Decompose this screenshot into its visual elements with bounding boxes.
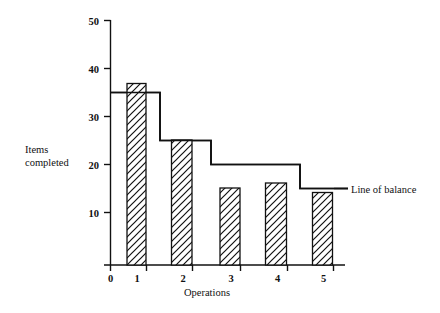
chart-svg: 50 40 30 20 10 bbox=[0, 0, 440, 313]
y-axis-title-line2: completed bbox=[25, 157, 69, 168]
line-of-balance-chart: 50 40 30 20 10 bbox=[0, 0, 440, 313]
bars-group bbox=[127, 84, 333, 266]
bar-operation-4 bbox=[266, 183, 287, 265]
bar-operation-1 bbox=[127, 84, 146, 266]
x-tick-label-1: 1 bbox=[134, 273, 139, 284]
y-tick-label-10: 10 bbox=[89, 208, 100, 219]
bar-operation-5 bbox=[313, 193, 333, 266]
x-tick-label-0: 0 bbox=[108, 273, 113, 284]
y-tick-label-30: 30 bbox=[89, 112, 100, 123]
y-tick-label-50: 50 bbox=[89, 16, 100, 27]
y-tick-label-20: 20 bbox=[89, 160, 100, 171]
line-of-balance-annotation-group: Line of balance bbox=[334, 184, 417, 195]
y-axis-ticks: 50 40 30 20 10 bbox=[89, 16, 111, 219]
y-axis-title-line1: Items bbox=[25, 144, 48, 155]
x-tick-label-4: 4 bbox=[275, 273, 281, 284]
x-axis-ticks: 0 1 2 3 4 5 bbox=[108, 265, 334, 284]
x-axis-title: Operations bbox=[184, 287, 230, 298]
bar-operation-2 bbox=[172, 140, 193, 265]
line-of-balance-annotation-label: Line of balance bbox=[351, 184, 417, 195]
x-tick-label-3: 3 bbox=[228, 273, 233, 284]
bar-operation-3 bbox=[220, 188, 240, 265]
x-tick-label-2: 2 bbox=[180, 273, 185, 284]
x-tick-label-5: 5 bbox=[321, 273, 326, 284]
y-tick-label-40: 40 bbox=[89, 64, 100, 75]
